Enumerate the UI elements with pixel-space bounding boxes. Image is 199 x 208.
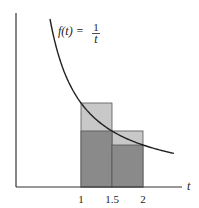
x-tick-label: 1.5 <box>105 193 119 205</box>
riemann-sum-chart: 11.52 t f(t) = 1 t <box>0 0 199 208</box>
x-tick-labels: 11.52 <box>78 193 146 205</box>
rectangles-group <box>81 103 143 187</box>
function-label: f(t) = 1 t <box>58 21 100 46</box>
function-label-lhs: f(t) = <box>58 24 84 38</box>
lower-sum-1-rect <box>81 131 112 187</box>
x-axis-label: t <box>187 179 191 193</box>
lower-sum-2-rect <box>112 145 143 187</box>
x-tick-label: 1 <box>78 193 84 205</box>
x-tick-label: 2 <box>140 193 146 205</box>
function-label-denominator: t <box>94 32 98 46</box>
